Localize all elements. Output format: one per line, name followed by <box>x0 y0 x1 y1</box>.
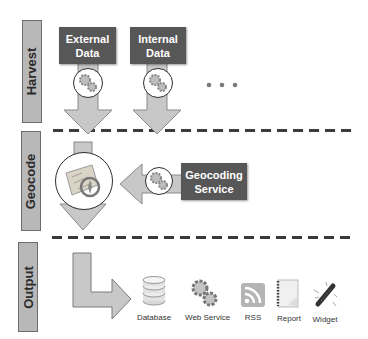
gears-icon <box>149 171 169 191</box>
source-box-line: Internal <box>130 32 186 46</box>
stage-label-output: Output <box>18 242 38 332</box>
stage-label-text: Harvest <box>25 48 40 96</box>
geocode-circle <box>55 152 113 210</box>
source-box-external-data: External Data <box>59 27 116 64</box>
output-label-report: Report <box>274 314 304 323</box>
output-label-widget: Widget <box>310 315 340 324</box>
source-box-line: Data <box>59 46 116 60</box>
process-circle <box>143 68 173 98</box>
source-box-line: Geocoding <box>181 168 247 182</box>
source-box-line: Service <box>181 182 247 196</box>
rss-icon <box>241 283 265 307</box>
gears-icon <box>190 278 220 308</box>
process-circle <box>145 167 173 195</box>
source-box-line: Data <box>130 46 186 60</box>
report-icon <box>276 279 300 309</box>
source-box-internal-data: Internal Data <box>130 27 186 64</box>
map-compass-icon <box>64 163 104 199</box>
stage-label-text: Output <box>21 266 36 309</box>
gears-icon <box>148 73 168 93</box>
output-label-rss: RSS <box>240 313 266 322</box>
stage-label-text: Geocode <box>24 153 39 209</box>
database-icon <box>141 276 167 308</box>
source-box-geocoding-service: Geocoding Service <box>181 163 247 200</box>
stage-label-harvest: Harvest <box>22 20 42 123</box>
widget-icon <box>311 280 339 310</box>
output-label-web-service: Web Service <box>185 313 229 322</box>
ellipsis-dots-icon <box>205 80 245 90</box>
source-box-line: External <box>59 32 116 46</box>
process-circle <box>73 68 103 98</box>
output-label-database: Database <box>134 313 174 322</box>
stage-label-geocode: Geocode <box>21 131 41 231</box>
gears-icon <box>78 73 98 93</box>
